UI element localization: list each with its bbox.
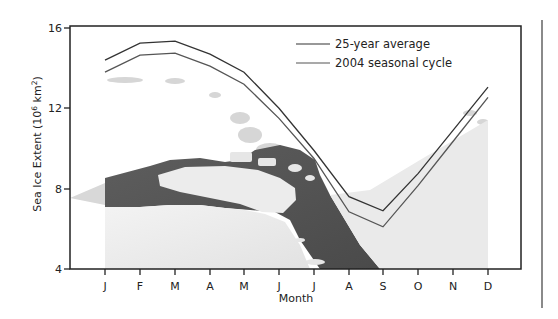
legend-label-2004-seasonal-cycle: 2004 seasonal cycle: [335, 56, 452, 70]
page-divider-rule: [541, 20, 543, 308]
x-axis: [105, 269, 488, 275]
x-tick-label: A: [345, 280, 353, 293]
y-axis-title: Sea Ice Extent (106 km2): [30, 76, 44, 212]
y-tick-label: 8: [55, 183, 62, 196]
sea-ice-photo-background: [70, 26, 521, 269]
sea-ice-chart: 16 12 8 4 Sea Ice Extent (106 km2) J F M…: [0, 0, 558, 319]
legend-label-25-year-average: 25-year average: [335, 37, 430, 51]
x-axis-title: Month: [279, 292, 314, 305]
x-tick-label: O: [414, 280, 423, 293]
y-tick-label: 4: [55, 263, 62, 276]
x-tick-label: A: [206, 280, 214, 293]
y-tick-label: 12: [48, 102, 62, 115]
y-tick-label: 16: [48, 22, 62, 35]
x-tick-label: N: [449, 280, 457, 293]
x-tick-label: M: [239, 280, 249, 293]
x-tick-label: D: [484, 280, 492, 293]
x-tick-label: M: [170, 280, 180, 293]
x-tick-label: F: [137, 280, 143, 293]
x-tick-label: S: [380, 280, 387, 293]
x-tick-label: J: [102, 280, 106, 293]
y-axis: [64, 28, 70, 269]
